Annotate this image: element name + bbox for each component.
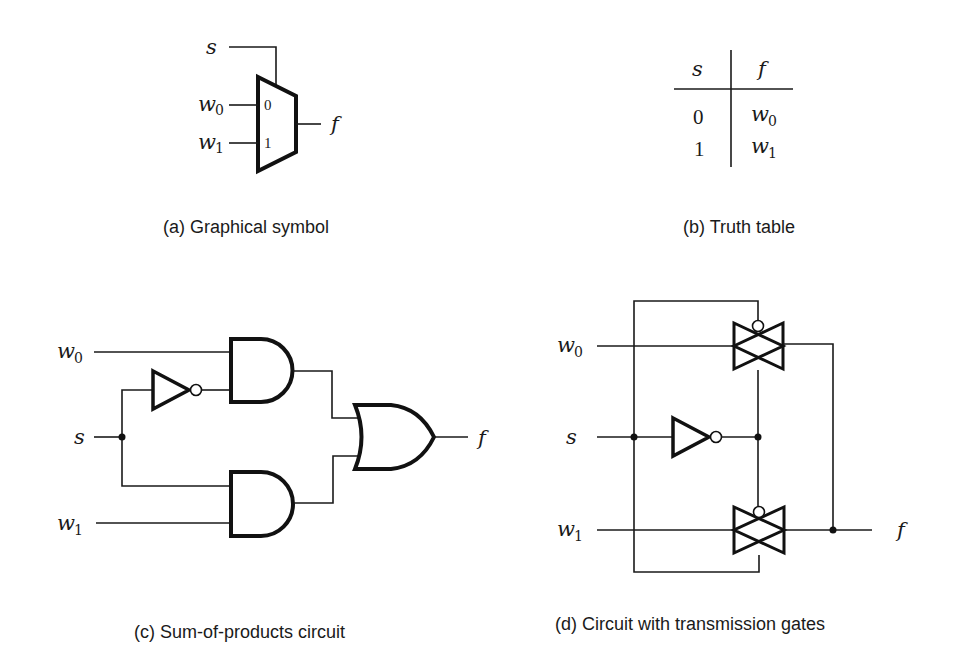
- not-gate: [153, 371, 189, 409]
- table-row-1-f: w: [751, 102, 769, 126]
- table-row-2-f: w: [751, 134, 769, 158]
- label-f: f: [476, 426, 489, 450]
- not-gate: [673, 418, 709, 456]
- label-w1-subscript: 1: [215, 140, 224, 156]
- mux-input-0-label: 0: [264, 97, 272, 113]
- junction-dot-s: [631, 434, 638, 441]
- tg-top-output-wire: [783, 344, 833, 530]
- label-w0: w: [557, 333, 575, 357]
- table-row-2-f-subscript: 1: [768, 145, 777, 161]
- label-w1: w: [57, 511, 75, 535]
- label-s: s: [74, 425, 85, 449]
- label-s: s: [566, 425, 577, 449]
- caption-d: (d) Circuit with transmission gates: [555, 614, 825, 634]
- inversion-bubble: [191, 385, 202, 396]
- panel-d-transmission-gates: w 0 s w 1 f: [555, 301, 908, 634]
- table-header-s: s: [692, 57, 703, 81]
- label-w1: w: [198, 130, 216, 154]
- label-w0: w: [57, 339, 75, 363]
- junction-dot-inverted-s: [755, 434, 762, 441]
- caption-c: (c) Sum-of-products circuit: [134, 622, 345, 642]
- table-row-2-s: 1: [694, 137, 705, 161]
- label-w1-subscript: 1: [574, 528, 583, 544]
- label-s: s: [206, 35, 217, 59]
- output-junction-dot: [830, 527, 837, 534]
- select-wire: [229, 47, 276, 86]
- panel-b-truth-table: s f 0 w 0 1 w 1 (b) Truth table: [674, 50, 795, 237]
- s-branch-wire: [122, 390, 230, 486]
- label-w0-subscript: 0: [74, 350, 83, 366]
- label-w0: w: [198, 92, 216, 116]
- transmission-gate-bottom: [734, 507, 784, 554]
- and-gate-top: [231, 339, 293, 402]
- and-top-to-or-wire: [293, 371, 360, 418]
- table-header-f: f: [756, 57, 769, 81]
- table-row-1-f-subscript: 0: [768, 113, 777, 129]
- tg-top-control-bubble: [753, 321, 764, 332]
- and-gate-bottom: [231, 472, 293, 536]
- mux-input-1-label: 1: [264, 135, 272, 151]
- panel-c-sum-of-products: w 0 s w 1 f (c) Sum-of-products circuit: [57, 339, 489, 642]
- caption-b: (b) Truth table: [683, 217, 795, 237]
- label-f: f: [329, 112, 342, 136]
- panel-a-graphical-symbol: s 0 1 w 0 w 1 f (a) Graphical symbol: [163, 35, 342, 237]
- multiplexer-figure: s 0 1 w 0 w 1 f (a) Graphical symbol s f…: [0, 0, 960, 664]
- mux-symbol: [258, 77, 296, 171]
- tg-bottom-control-bubble: [754, 507, 765, 518]
- transmission-gate-top: [734, 321, 783, 370]
- or-gate: [355, 405, 434, 469]
- label-f: f: [895, 518, 908, 542]
- label-w1-subscript: 1: [74, 522, 83, 538]
- and-bottom-to-or-wire: [294, 456, 360, 503]
- table-row-1-s: 0: [693, 105, 704, 129]
- junction-dot: [119, 434, 126, 441]
- label-w0-subscript: 0: [574, 344, 583, 360]
- inversion-bubble: [711, 432, 722, 443]
- label-w1: w: [557, 517, 575, 541]
- label-w0-subscript: 0: [215, 102, 224, 118]
- caption-a: (a) Graphical symbol: [163, 217, 329, 237]
